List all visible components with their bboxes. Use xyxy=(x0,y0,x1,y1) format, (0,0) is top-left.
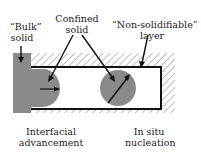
label-in-situ: In situ nucleation xyxy=(125,126,173,148)
label-confined-solid: Confined solid xyxy=(55,13,99,35)
label-interfacial: Interfacial advancement xyxy=(18,126,84,148)
label-non-solidifiable: “Non-solidifiable” layer xyxy=(112,19,192,41)
nucleated-solid xyxy=(100,70,136,106)
label-bulk-solid: “Bulk” solid xyxy=(10,21,34,43)
